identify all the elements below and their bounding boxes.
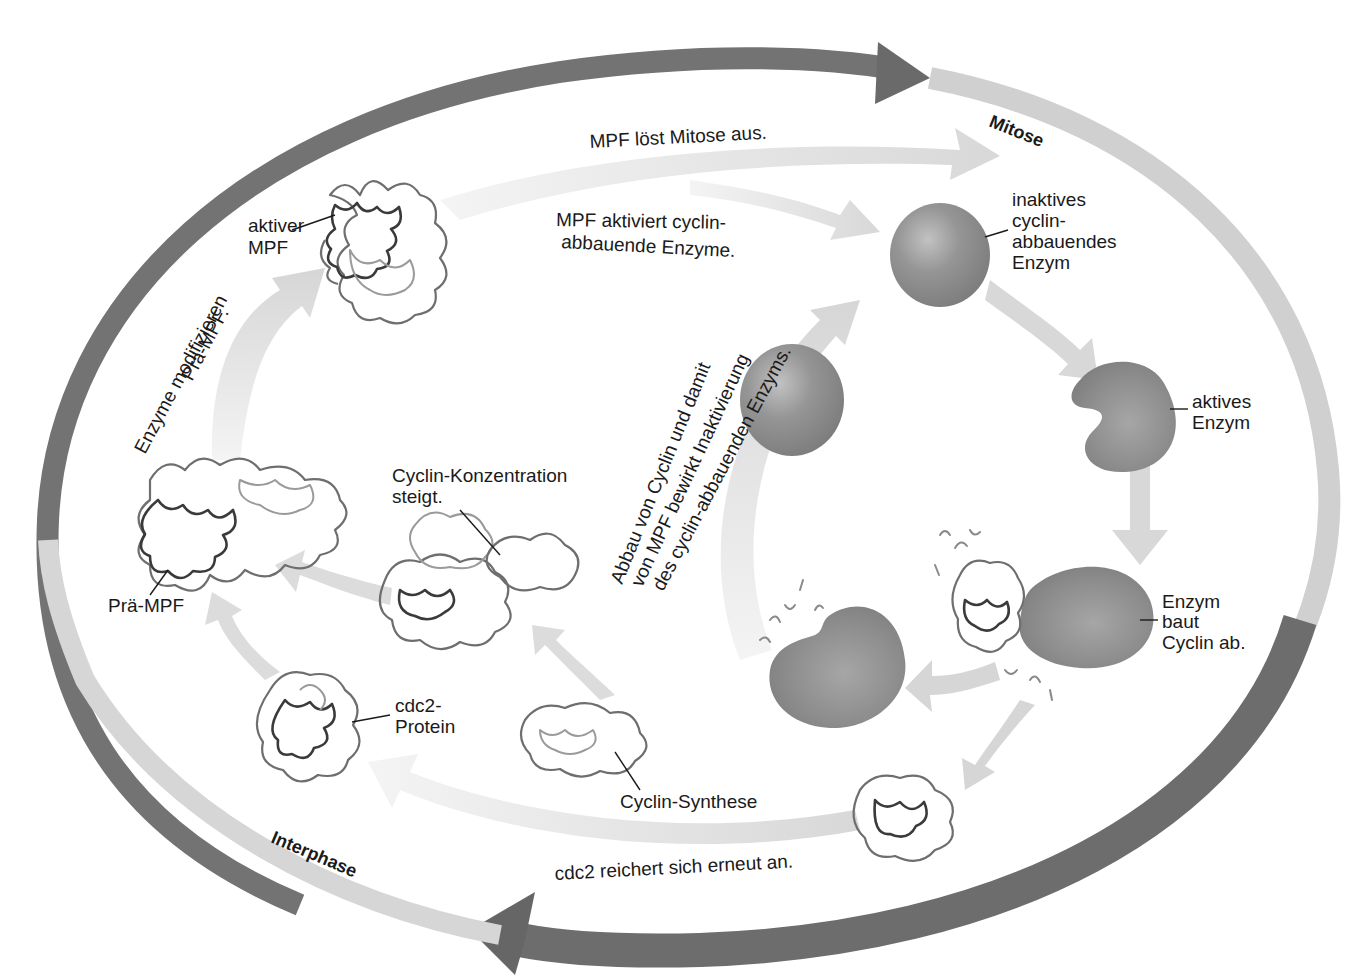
spent-enzyme-kidney	[769, 606, 905, 728]
label-active-mpf-2: MPF	[248, 237, 288, 258]
free-cdc2-tangle	[854, 776, 953, 861]
label-cyclin-conc-2: steigt.	[392, 486, 443, 507]
degrading-enzyme-kidney	[1019, 567, 1153, 668]
cyclin-synthesis-tangle	[521, 703, 646, 777]
label-inactive-enzyme-3: abbauendes	[1012, 231, 1117, 252]
mitosis-arrowhead-icon	[875, 42, 930, 104]
arrow-enzymes-modify-pre-mpf	[212, 268, 325, 460]
arrow-degrading-to-cdc2	[962, 700, 1035, 790]
label-mpf-triggers-mitosis: MPF löst Mitose aus.	[589, 122, 767, 152]
label-cyclin-synthesis: Cyclin-Synthese	[620, 791, 757, 812]
label-cyclin-conc-1: Cyclin-Konzentration	[392, 465, 567, 486]
label-active-mpf-1: aktiver	[248, 215, 305, 236]
inactive-enzyme-sphere	[890, 203, 990, 307]
label-cdc2-accumulates: cdc2 reichert sich erneut an.	[554, 851, 793, 884]
label-cdc2-1: cdc2-	[395, 695, 441, 716]
label-cdc2-2: Protein	[395, 716, 455, 737]
active-enzyme-kidney	[1072, 362, 1176, 472]
arrow-cyclin-to-pre-mpf	[275, 550, 392, 605]
label-enzyme-degrades-1: Enzym	[1162, 591, 1220, 612]
active-mpf-complex	[321, 181, 446, 323]
label-inactive-enzyme-1: inaktives	[1012, 189, 1086, 210]
label-active-enzyme-2: Enzym	[1192, 412, 1250, 433]
arrow-degrading-to-spent	[905, 660, 1000, 712]
arrow-cdc2-accumulates	[368, 754, 860, 844]
arrow-cdc2-to-pre-mpf	[205, 592, 280, 680]
label-mpf-activates-1: MPF aktiviert cyclin-	[556, 209, 726, 233]
label-inactive-enzyme-4: Enzym	[1012, 252, 1070, 273]
label-enzyme-degrades-2: baut	[1162, 611, 1200, 632]
label-mpf-activates-2: abbauende Enzyme.	[561, 231, 736, 261]
mitosis-arc	[930, 78, 1329, 905]
enzymes	[740, 203, 1176, 728]
arrow-synthesis-to-cyclin	[532, 625, 615, 700]
cyclin-being-degraded	[952, 561, 1024, 652]
label-inactive-enzyme-2: cyclin-	[1012, 210, 1066, 231]
cdc2-protein-tangle	[257, 672, 360, 781]
label-enzyme-degrades-3: Cyclin ab.	[1162, 632, 1245, 653]
arrow-inactive-to-active-enzyme	[985, 280, 1098, 380]
label-pre-mpf: Prä-MPF	[108, 595, 184, 616]
label-active-enzyme-1: aktives	[1192, 391, 1251, 412]
arrow-labels: MPF löst Mitose aus. MPF aktiviert cycli…	[130, 122, 795, 884]
mpf-cycle-diagram: Mitose Interphase	[0, 0, 1361, 978]
